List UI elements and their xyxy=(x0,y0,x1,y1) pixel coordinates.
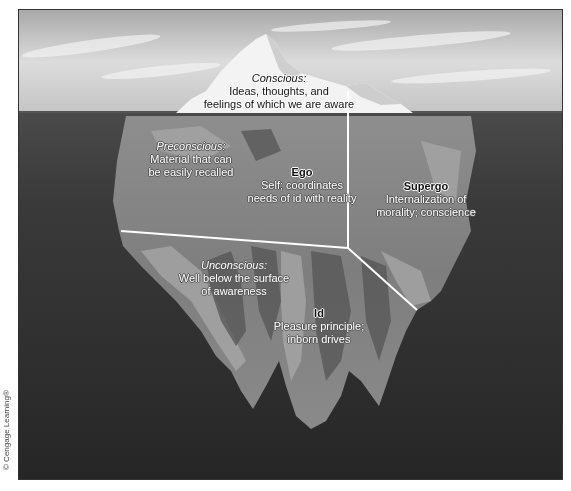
unconscious-line-2: of awareness xyxy=(164,285,304,298)
unconscious-label: Unconscious: Well below the surface of a… xyxy=(164,259,304,298)
ego-line-2: needs of id with reality xyxy=(227,192,377,205)
id-line-1: Pleasure principle; xyxy=(259,320,379,333)
ego-line-1: Self; coordinates xyxy=(227,179,377,192)
conscious-title: Conscious: xyxy=(159,72,399,85)
preconscious-line-1: Material that can xyxy=(131,153,251,166)
conscious-line-2: feelings of which we are aware xyxy=(159,98,399,111)
unconscious-title: Unconscious: xyxy=(164,259,304,272)
id-line-2: inborn drives xyxy=(259,333,379,346)
supergo-line-1: Internalization of xyxy=(361,193,491,206)
iceberg-diagram: Conscious: Ideas, thoughts, and feelings… xyxy=(18,9,563,480)
supergo-label: Supergo Internalization of morality; con… xyxy=(361,180,491,219)
conscious-line-1: Ideas, thoughts, and xyxy=(159,85,399,98)
id-label: Id Pleasure principle; inborn drives xyxy=(259,307,379,346)
conscious-label: Conscious: Ideas, thoughts, and feelings… xyxy=(159,72,399,111)
ego-title: Ego xyxy=(227,166,377,179)
ego-label: Ego Self; coordinates needs of id with r… xyxy=(227,166,377,205)
preconscious-title: Preconscious: xyxy=(131,140,251,153)
id-title: Id xyxy=(259,307,379,320)
supergo-title: Supergo xyxy=(361,180,491,193)
supergo-line-2: morality; conscience xyxy=(361,206,491,219)
copyright-credit: © Cengage Learning® xyxy=(2,390,11,470)
unconscious-line-1: Well below the surface xyxy=(164,272,304,285)
